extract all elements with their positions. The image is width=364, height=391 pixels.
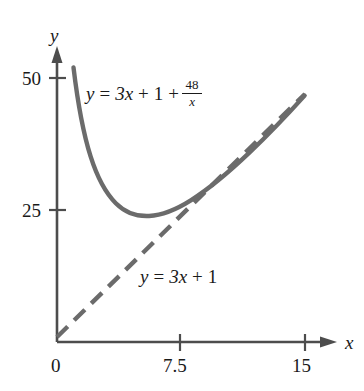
- curve-eq-lhs: y: [86, 84, 94, 103]
- curve-eq-constant: 1: [154, 84, 164, 103]
- fraction-numerator: 48: [184, 78, 201, 92]
- y-tick-label-50: 50: [22, 69, 41, 88]
- curve-equation-label: y = 3x + 1 + 48 x: [86, 78, 202, 109]
- line-equation-label: y = 3x + 1: [140, 267, 217, 286]
- curve-eq-slope-term: 3x: [115, 84, 133, 103]
- fraction-denominator: x: [187, 95, 197, 109]
- x-tick-label-0: 0: [51, 356, 61, 375]
- curve-eq-plus-fraction: +: [168, 84, 179, 103]
- x-axis-label: x: [345, 333, 353, 352]
- line-eq-plus-one: +: [192, 267, 203, 286]
- x-axis-arrowhead: [320, 337, 337, 348]
- line-eq-constant: 1: [208, 267, 218, 286]
- x-tick-label-15: 15: [292, 356, 311, 375]
- curve-eq-equals: =: [99, 84, 110, 103]
- curve-eq-fraction: 48 x: [182, 78, 202, 109]
- line-eq-equals: =: [153, 267, 164, 286]
- asymptote-line-series: [57, 94, 305, 337]
- y-tick-label-25: 25: [22, 201, 41, 220]
- curve-eq-plus-one: +: [138, 84, 149, 103]
- y-axis-arrowhead: [52, 46, 63, 63]
- y-axis-label: y: [50, 26, 58, 45]
- line-eq-lhs: y: [140, 267, 148, 286]
- x-tick-label-7-5: 7.5: [163, 356, 187, 375]
- graph-canvas: [0, 0, 364, 391]
- line-eq-slope-term: 3x: [169, 267, 187, 286]
